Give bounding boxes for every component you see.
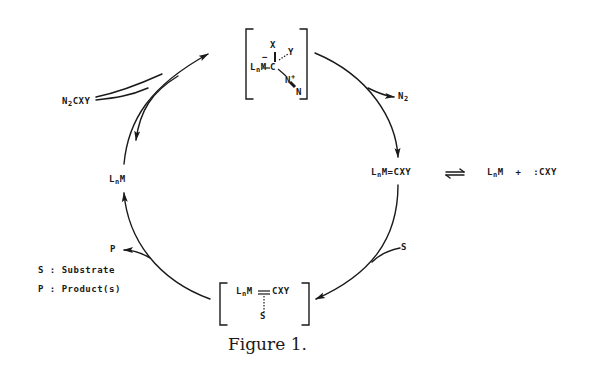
arc-catalyst-to-top [124,54,208,164]
bottom-left-bracket [220,283,227,325]
substrate-label: S [401,242,407,252]
substituent-y: Y [288,47,294,57]
legend-item-product: P : Product(s) [38,284,121,294]
carbene-label: LnM=CXY [371,167,411,179]
bottom-intermediate-substrate: S [260,311,266,321]
arc-bottom-to-catalyst [124,193,210,299]
legend-item-substrate: S : Substrate [38,265,115,275]
product-out-arrow [124,250,150,258]
top-intermediate-metal: LnM [250,62,267,74]
bottom-intermediate-carbene: CXY [272,286,290,296]
arc-carbene-to-bottom [316,185,398,299]
diazo-in-arrow [96,74,162,97]
figure-caption: Figure 1. [228,334,307,354]
nitrogen-plus: N+ [285,73,296,85]
diazo-compound-label: N2CXY [62,96,90,108]
n2-label: N2 [398,91,409,103]
nitrogen-terminal: N [296,87,302,97]
product-label: P [110,244,116,254]
arc-top-to-carbene [315,53,398,157]
arc-reverse [136,76,178,140]
bottom-right-bracket [302,283,309,325]
carbon-atom: C [270,62,276,72]
cycle-arrows [0,0,598,371]
substituent-x: X [270,40,276,50]
negative-charge: − [262,52,268,62]
bottom-intermediate-metal: LnM [236,286,253,298]
catalytic-cycle-diagram: X Y LnM − C N+ N N2CXY N2 LnM LnM=CXY Ln… [0,0,598,371]
free-carbene-products: LnM + :CXY [487,167,557,179]
metal-M: M [261,62,267,72]
n2-release-arrow [368,88,394,97]
catalyst-label: LnM [109,174,126,186]
